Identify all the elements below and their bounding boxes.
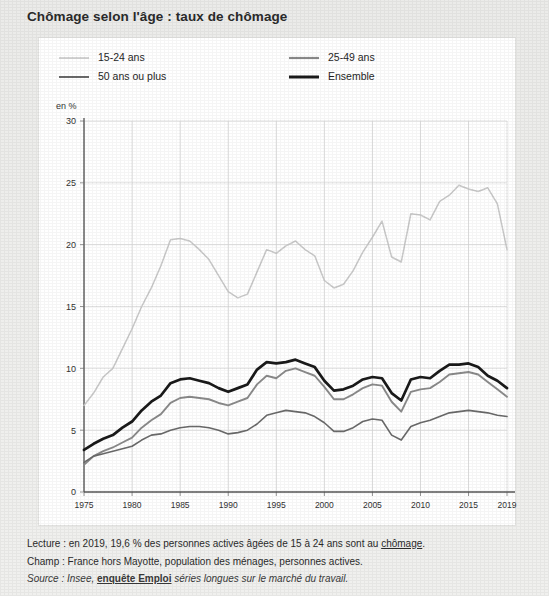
note-source: Source : Insee, enquête Emploi séries lo…	[27, 570, 527, 588]
note-source-bold: enquête Emploi	[97, 573, 171, 584]
series-line-50-ans-ou-plus	[84, 410, 507, 462]
chart-card: 15-24 ans 25-49 ans 50 ans ou plus	[38, 37, 516, 526]
y-tick-label: 10	[66, 364, 76, 374]
note-source-prefix: Source : Insee,	[27, 573, 97, 584]
y-tick-label: 25	[66, 178, 76, 188]
y-tick-label: 5	[71, 426, 76, 436]
series-line-25-49-ans	[84, 368, 507, 464]
page-title: Chômage selon l'âge : taux de chômage	[27, 9, 287, 24]
note-champ: Champ : France hors Mayotte, population …	[27, 553, 527, 571]
note-lecture-suffix: .	[422, 538, 425, 549]
line-chart-plot: 0510152025301975198019851990199520002005…	[39, 38, 517, 527]
note-lecture: Lecture : en 2019, 19,6 % des personnes …	[27, 535, 527, 553]
note-lecture-link[interactable]: chômage	[381, 538, 422, 549]
x-tick-label: 1980	[123, 500, 142, 510]
chart-notes: Lecture : en 2019, 19,6 % des personnes …	[27, 535, 527, 588]
x-tick-label: 2015	[459, 500, 478, 510]
note-lecture-prefix: Lecture : en 2019, 19,6 % des personnes …	[27, 538, 381, 549]
x-tick-label: 1985	[171, 500, 190, 510]
y-tick-label: 30	[66, 116, 76, 126]
note-source-suffix: séries longues sur le marché du travail.	[172, 573, 349, 584]
x-tick-label: 1975	[75, 500, 94, 510]
x-tick-label: 2005	[363, 500, 382, 510]
y-tick-label: 0	[71, 487, 76, 497]
y-tick-label: 15	[66, 302, 76, 312]
x-tick-label: 2010	[411, 500, 430, 510]
x-tick-label: 2000	[315, 500, 334, 510]
y-tick-label: 20	[66, 240, 76, 250]
x-tick-label: 1995	[267, 500, 286, 510]
x-tick-label: 2019	[498, 500, 517, 510]
screenshot-page: Chômage selon l'âge : taux de chômage 15…	[0, 0, 549, 596]
series-line-15-24-ans	[84, 185, 507, 405]
x-tick-label: 1990	[219, 500, 238, 510]
